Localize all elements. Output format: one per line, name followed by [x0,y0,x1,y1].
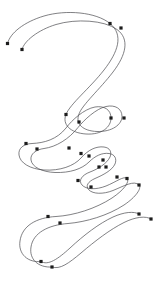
canvas-background [0,0,162,284]
anchor-point-inner-spline-3[interactable] [122,116,125,119]
anchor-point-outer-spline-4[interactable] [24,142,27,145]
anchor-point-inner-spline-8[interactable] [89,185,92,188]
anchor-point-inner-spline-7[interactable] [104,165,107,168]
anchor-point-inner-spline-2[interactable] [77,120,80,123]
anchor-point-outer-spline-11[interactable] [46,215,49,218]
anchor-point-outer-spline-2[interactable] [64,113,67,116]
anchor-point-outer-spline-10[interactable] [125,177,128,180]
anchor-point-outer-spline-1[interactable] [108,22,111,25]
anchor-point-inner-spline-9[interactable] [137,183,140,186]
anchor-point-outer-spline-6[interactable] [101,158,104,161]
anchor-point-outer-spline-5[interactable] [79,152,82,155]
anchor-point-outer-spline-12[interactable] [39,260,42,263]
anchor-point-inner-spline-0[interactable] [20,48,23,51]
anchor-point-inner-spline-10[interactable] [58,221,61,224]
anchor-point-inner-spline-6[interactable] [87,154,90,157]
anchor-point-outer-spline-0[interactable] [6,42,9,45]
anchor-point-outer-spline-7[interactable] [97,165,100,168]
anchor-point-inner-spline-4[interactable] [35,147,38,150]
anchor-point-outer-spline-8[interactable] [76,179,79,182]
anchor-point-inner-spline-11[interactable] [50,265,53,268]
anchor-point-outer-spline-3[interactable] [109,116,112,119]
spline-drawing-canvas[interactable] [0,0,162,284]
anchor-point-inner-spline-5[interactable] [67,146,70,149]
anchor-point-lower-right-inner-spline-0[interactable] [149,217,152,220]
anchor-point-lower-right-outer-spline-0[interactable] [137,212,140,215]
vector-canvas-surface [0,0,162,284]
anchor-point-inner-spline-1[interactable] [119,26,122,29]
anchor-point-outer-spline-9[interactable] [115,175,118,178]
